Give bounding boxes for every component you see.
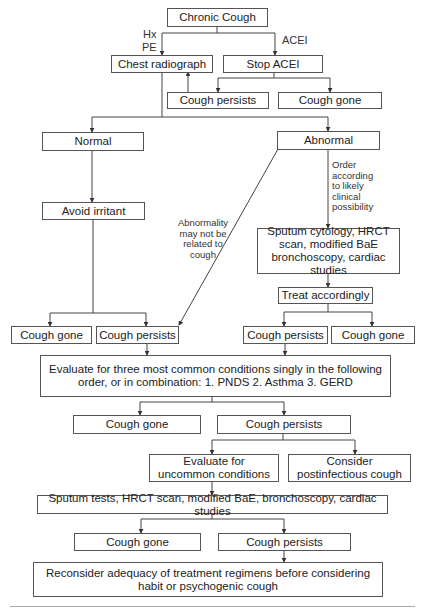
node-final-cough-gone: Cough gone <box>74 533 201 551</box>
node-abnormal-tests: Sputum cytology, HRCT scan, modified BaE… <box>257 228 400 274</box>
node-reconsider: Reconsider adequacy of treatment regimen… <box>33 562 383 597</box>
node-treat-accordingly: Treat accordingly <box>278 287 373 304</box>
node-evaluate-common: Evaluate for three most common condition… <box>40 355 391 397</box>
node-stop-acei: Stop ACEI <box>223 55 323 73</box>
node-acei-cough-gone: Cough gone <box>278 92 382 109</box>
node-chest-radiograph: Chest radiograph <box>111 55 213 73</box>
node-abnormal: Abnormal <box>277 131 380 150</box>
node-common-cough-gone: Cough gone <box>73 415 201 434</box>
node-avoid-irritant: Avoid irritant <box>42 202 145 220</box>
node-normal-cough-gone: Cough gone <box>11 326 92 344</box>
node-chronic-cough: Chronic Cough <box>167 8 268 27</box>
node-normal: Normal <box>42 132 144 151</box>
node-common-cough-persists: Cough persists <box>217 415 351 434</box>
node-treat-cough-persists: Cough persists <box>243 326 328 344</box>
node-acei-cough-persists: Cough persists <box>167 92 269 109</box>
node-normal-cough-persists: Cough persists <box>96 326 179 344</box>
edge-label-abnormality: Abnormality may not be related to cough <box>177 218 229 260</box>
edge-label-pe: PE <box>142 42 157 53</box>
edge-label-acei: ACEI <box>282 35 308 46</box>
node-treat-cough-gone: Cough gone <box>331 326 415 344</box>
edge-label-order: Order according to likely clinical possi… <box>332 160 380 213</box>
node-postinfectious: Consider postinfectious cough <box>288 454 411 482</box>
bottom-rule <box>10 606 415 607</box>
node-uncommon-tests: Sputum tests, HRCT scan, modified BaE, b… <box>37 495 388 514</box>
edge-label-hx: Hx <box>143 29 156 40</box>
node-evaluate-uncommon: Evaluate for uncommon conditions <box>149 454 279 482</box>
node-final-cough-persists: Cough persists <box>218 533 351 551</box>
